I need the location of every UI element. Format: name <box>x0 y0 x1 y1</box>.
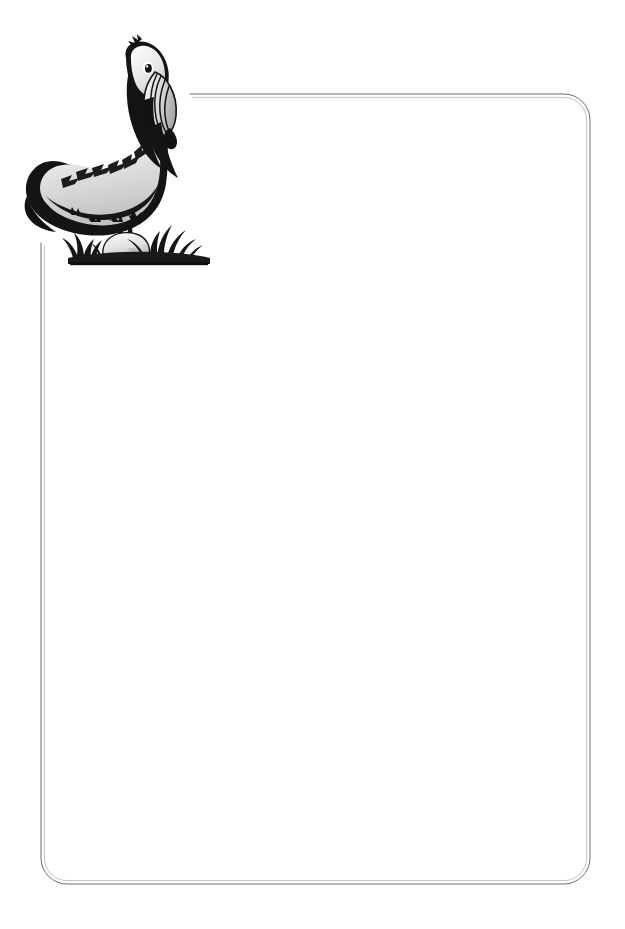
pelican-eye <box>143 62 153 74</box>
stationery-page: Blank Pelican Stationery Sheet Brown Pel… <box>0 0 625 929</box>
brown-pelican-illustration <box>0 0 625 929</box>
ground-line <box>70 262 208 265</box>
pelican-figure <box>25 34 210 265</box>
